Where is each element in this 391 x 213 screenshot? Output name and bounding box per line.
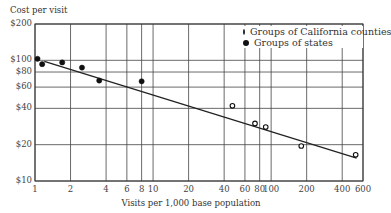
y-axis-title: Cost per visit <box>10 5 67 15</box>
x-tick-label: 1 <box>23 184 47 194</box>
x-tick-label: 600 <box>351 184 375 194</box>
filled-circle-point <box>35 56 40 61</box>
y-tick-label: $80 <box>0 66 32 76</box>
open-circle-point <box>353 152 358 157</box>
trend-line <box>44 61 356 158</box>
x-tick-label: 200 <box>295 184 319 194</box>
y-tick-label: $20 <box>0 139 32 149</box>
legend-label: Groups of California counties <box>250 26 391 37</box>
open-circle-point <box>263 125 268 130</box>
x-axis-title: Visits per 1,000 base population <box>0 198 382 208</box>
x-tick-label: 10 <box>141 184 165 194</box>
open-circle-point <box>253 121 258 126</box>
open-circle-point <box>299 144 304 149</box>
x-tick-label: 20 <box>177 184 201 194</box>
filled-circle-point <box>139 79 144 84</box>
y-tick-label: $100 <box>0 54 32 64</box>
legend: Groups of California counties Groups of … <box>243 26 363 48</box>
data-points <box>35 56 358 157</box>
legend-label: Groups of states <box>254 37 333 48</box>
filled-circle-point <box>60 60 65 65</box>
y-tick-label: $200 <box>0 18 32 28</box>
x-tick-label: 100 <box>259 184 283 194</box>
filled-circle-point <box>97 78 102 83</box>
filled-circle-point <box>79 65 84 70</box>
legend-item-states: Groups of states <box>243 37 363 48</box>
open-circle-point <box>230 103 235 108</box>
x-tick-label: 2 <box>59 184 83 194</box>
open-circle-icon <box>243 29 245 35</box>
y-tick-label: $40 <box>0 102 32 112</box>
filled-circle-point <box>40 62 45 67</box>
filled-circle-icon <box>243 40 249 46</box>
legend-item-california-counties: Groups of California counties <box>243 26 363 37</box>
y-tick-label: $60 <box>0 81 32 91</box>
